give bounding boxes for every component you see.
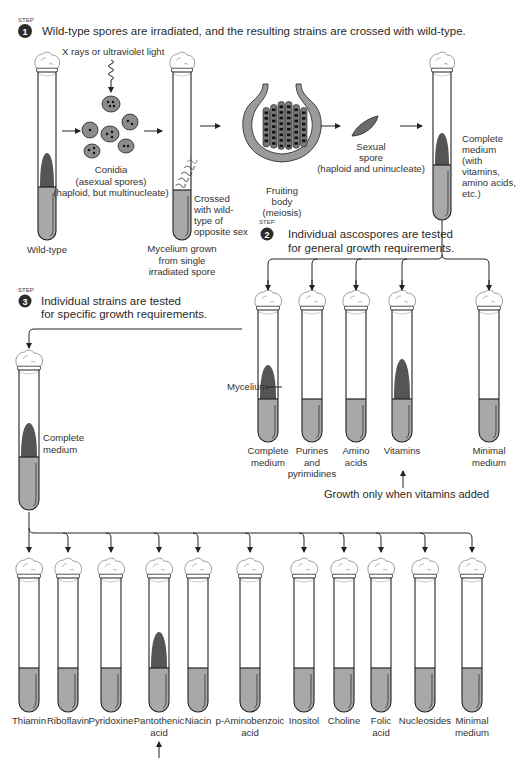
wildtype-label: Wild-type (27, 244, 67, 255)
step1-text: Wild-type spores are irradiated, and the… (42, 25, 466, 37)
step3-tube (412, 558, 439, 712)
step3-tube (237, 558, 264, 712)
radiation-wave-icon (109, 60, 114, 92)
step3-branch-connector (29, 512, 472, 552)
step3-tube-label: Pantothenic (134, 715, 185, 726)
cotton-plug-icon (299, 290, 326, 306)
step3-tube (459, 558, 486, 712)
cotton-plug-icon (459, 558, 486, 574)
step3-tube (331, 558, 358, 712)
radiation-label: X rays or ultraviolet light (62, 46, 165, 57)
step3-tube (185, 558, 212, 712)
step2-tube (299, 290, 326, 442)
mycelium-growth (435, 133, 449, 165)
step2-tube-label: pyrimidines (288, 468, 337, 479)
step2-badge-number: 2 (264, 230, 269, 240)
step2-tube-label: acids (345, 457, 368, 468)
step3-tube-label: Nucleosides (399, 715, 451, 726)
mycelium-growth (40, 153, 54, 187)
step3-tube (98, 558, 125, 712)
mycelium-label: from single (159, 255, 206, 266)
step2-labels: CompletemediumPurinesandpyrimidinesAmino… (247, 445, 506, 479)
step-superscript: STEP (259, 219, 275, 225)
step1-header: STEP 1 Wild-type spores are irradiated, … (18, 17, 466, 38)
step3-tube-label: Riboflavin (47, 715, 89, 726)
sexual-spore-label: Sexual (356, 141, 385, 152)
step3-tube-label: Folic (371, 715, 391, 726)
complete-medium-label: amino acids, (462, 177, 516, 188)
step3-source-tube (16, 350, 43, 510)
mycelium-pointer-label: Mycelium (227, 381, 268, 392)
step2-tube-label: Purines (296, 445, 329, 456)
step3-tube-label: acid (241, 727, 259, 738)
step2-tube-label: medium (251, 457, 285, 468)
step2-header: STEP 2 Individual ascospores are tested … (259, 219, 454, 254)
cotton-plug-icon (16, 350, 43, 366)
sexual-spore-label: spore (359, 152, 383, 163)
crossed-label: with wild- (193, 204, 233, 215)
step2-tube-label: Complete (247, 445, 288, 456)
cotton-plug-icon (412, 558, 439, 574)
complete-medium-label: Complete (462, 133, 503, 144)
sexual-spore-icon (352, 116, 378, 136)
cotton-plug-icon (476, 290, 503, 306)
cotton-plug-icon (389, 290, 416, 306)
cotton-plug-icon (170, 52, 195, 68)
step3-tube-label: medium (455, 727, 489, 738)
step2-tube-label: medium (472, 457, 506, 468)
step3-badge-number: 3 (22, 297, 27, 307)
step2-tube (255, 290, 282, 442)
asci-icon (263, 102, 307, 150)
cotton-plug-icon (185, 558, 212, 574)
cotton-plug-icon (16, 558, 43, 574)
step-superscript: STEP (18, 17, 34, 23)
crossed-label: Crossed (194, 193, 230, 204)
conidia-label: Conidia (95, 164, 128, 175)
irradiated-mycelium-tube (170, 52, 197, 240)
cotton-plug-icon (430, 52, 455, 68)
radiation-group: X rays or ultraviolet light (62, 46, 165, 92)
step3-tube-label: Niacin (185, 715, 212, 726)
step3-tube-label: acid (372, 727, 390, 738)
step3-labels: ThiaminRiboflavinPyridoxinePantothenicac… (12, 715, 489, 738)
step2-tube (476, 290, 503, 442)
mycelium-growth (151, 632, 167, 668)
cotton-plug-icon (331, 558, 358, 574)
cotton-plug-icon (368, 558, 395, 574)
cotton-plug-icon (343, 290, 370, 306)
wildtype-tube (35, 52, 60, 240)
step3-text-line1: Individual strains are tested (41, 295, 181, 307)
complete-medium-tube (430, 52, 455, 220)
mycelium-label: irradiated spore (149, 266, 216, 277)
step3-tube-label: acid (150, 727, 168, 738)
conidia-label: (asexual spores) (76, 176, 147, 187)
step3-tube (16, 558, 43, 712)
step3-tube (368, 558, 395, 712)
crossed-label: type of (194, 215, 223, 226)
complete-medium-label: vitamins, (462, 166, 500, 177)
step3-tube-label: Pyridoxine (89, 715, 134, 726)
step3-tube-label: Choline (328, 715, 361, 726)
step3-tube-label: Inositol (289, 715, 319, 726)
step3-tube (55, 558, 82, 712)
step3-tube-label: Minimal (455, 715, 488, 726)
step2-text-line1: Individual ascospores are tested (288, 228, 453, 240)
source-tube-label-line1: Complete (43, 432, 84, 443)
step2-tube-label: Amino (342, 445, 369, 456)
neurospora-experiment-diagram: STEP 1 Wild-type spores are irradiated, … (0, 0, 518, 760)
complete-medium-label: (with (462, 155, 482, 166)
step-superscript: STEP (18, 287, 34, 293)
step1-badge-number: 1 (22, 27, 27, 37)
step3-tube (291, 558, 318, 712)
fruiting-body-label: (meiosis) (263, 207, 302, 218)
fruiting-body-label: body (272, 196, 293, 207)
step3-connector (29, 329, 242, 348)
source-tube-label-line2: medium (43, 444, 77, 455)
mycelium-label: Mycelium grown (147, 243, 216, 254)
step3-text-line2: for specific growth requirements. (41, 308, 207, 320)
fruiting-body-icon (243, 84, 322, 162)
mycelium-growth (394, 359, 410, 399)
step2-tube (343, 290, 370, 442)
step2-result-note: Growth only when vitamins added (324, 488, 489, 500)
cotton-plug-icon (55, 558, 82, 574)
